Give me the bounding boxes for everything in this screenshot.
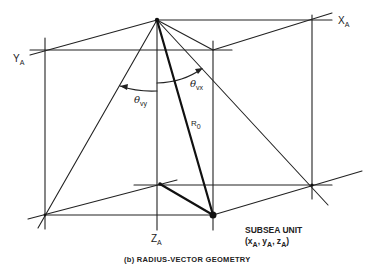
subsea-unit-title: SUBSEA UNIT [245,225,302,236]
z-axis-label: ZA [151,233,162,246]
figure-caption: (b) RADIUS-VECTOR GEOMETRY [124,255,251,264]
left-junction-point [44,214,47,217]
xa-junction-point [310,183,313,186]
apex-to-left-line [38,20,157,228]
subsea-unit-point [210,212,217,219]
theta-vy-arrowhead [120,84,128,90]
theta-vx-label: θvx [190,78,203,91]
theta-vy-label: θvy [134,94,147,107]
bottom-left-slant [28,180,177,219]
x-axis-label: XA [338,15,349,28]
x-slant-line [213,13,332,50]
subsea-unit-coords: (xA, yA, zA) [245,236,302,250]
r0-vector [157,20,213,215]
theta-vx-arrowhead [195,68,203,74]
apex-point [155,18,159,22]
bottom-right-slant [213,171,362,215]
junction-point [158,182,162,186]
r0-label: R0 [191,119,201,130]
subsea-unit-label: SUBSEA UNIT (xA, yA, zA) [245,225,302,250]
radius-vector-diagram [0,0,375,268]
y-axis-label: YA [13,53,24,66]
